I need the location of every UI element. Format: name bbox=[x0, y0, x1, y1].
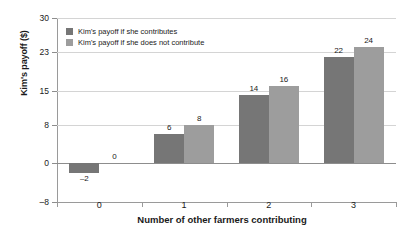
y-axis-tick bbox=[52, 91, 57, 92]
y-axis-tick-label: 23 bbox=[40, 47, 49, 57]
bar bbox=[69, 163, 99, 173]
bar-value-label: 0 bbox=[112, 152, 116, 161]
y-axis-tick-label: –8 bbox=[40, 197, 49, 207]
y-axis-tick-label: 15 bbox=[40, 86, 49, 96]
x-axis-tick bbox=[57, 202, 58, 207]
x-axis-tick bbox=[396, 202, 397, 207]
x-axis-tick bbox=[311, 202, 312, 207]
y-axis-tick-label: 30 bbox=[40, 13, 49, 23]
legend-item: Kim's payoff if she contributes bbox=[66, 26, 204, 37]
bar-chart-figure: Kim's payoff ($) 30231580–8–206814162224… bbox=[0, 0, 415, 236]
y-axis-tick bbox=[52, 125, 57, 126]
x-axis-tick-label: 1 bbox=[182, 200, 187, 210]
gridline bbox=[57, 18, 396, 19]
bar bbox=[154, 134, 184, 163]
x-axis-tick bbox=[227, 202, 228, 207]
legend: Kim's payoff if she contributes Kim's pa… bbox=[66, 26, 204, 48]
x-axis-tick bbox=[142, 202, 143, 207]
bar-value-label: 24 bbox=[364, 36, 373, 45]
x-axis-tick-label: 2 bbox=[266, 200, 271, 210]
y-axis-tick bbox=[52, 52, 57, 53]
bar-value-label: 8 bbox=[197, 114, 201, 123]
x-axis-title: Number of other farmers contributing bbox=[47, 214, 397, 225]
legend-swatch-icon bbox=[66, 39, 73, 46]
bar-value-label: –2 bbox=[80, 174, 89, 183]
x-axis-tick-label: 3 bbox=[351, 200, 356, 210]
y-axis-tick-label: 0 bbox=[44, 158, 49, 168]
legend-label: Kim's payoff if she does not contribute bbox=[78, 38, 204, 47]
legend-item: Kim's payoff if she does not contribute bbox=[66, 37, 204, 48]
bar bbox=[324, 57, 354, 164]
bar bbox=[184, 125, 214, 164]
bar-value-label: 16 bbox=[279, 75, 288, 84]
bar-value-label: 6 bbox=[167, 123, 171, 132]
bar bbox=[354, 47, 384, 163]
y-axis-spine bbox=[57, 18, 58, 202]
bar bbox=[269, 86, 299, 163]
x-axis-tick-label: 0 bbox=[97, 200, 102, 210]
gridline bbox=[57, 52, 396, 53]
y-axis-tick bbox=[52, 163, 57, 164]
bar-value-label: 22 bbox=[334, 46, 343, 55]
legend-label: Kim's payoff if she contributes bbox=[78, 27, 177, 36]
y-axis-tick-label: 8 bbox=[44, 120, 49, 130]
bar bbox=[239, 95, 269, 163]
gridline bbox=[57, 163, 396, 164]
y-axis-title: Kim's payoff ($) bbox=[19, 0, 29, 133]
bar-value-label: 14 bbox=[249, 84, 258, 93]
legend-swatch-icon bbox=[66, 28, 73, 35]
y-axis-tick bbox=[52, 18, 57, 19]
